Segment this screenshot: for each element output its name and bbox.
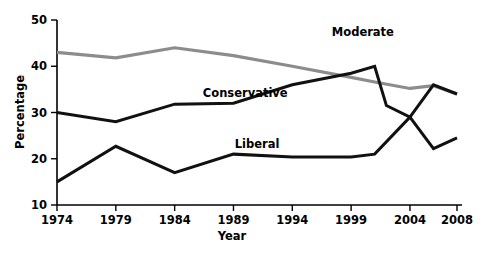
y-tick-label: 40 [31,59,47,73]
y-tick-label: 30 [31,106,47,120]
x-tick-label: 2008 [441,213,473,227]
chart-canvas: 1020304050 19741979198419891994199920042… [0,0,481,255]
series-label-conservative: Conservative [203,86,288,100]
x-tick-label: 1999 [335,213,367,227]
y-axis-title: Percentage [13,75,27,149]
y-tick-label: 50 [31,13,47,27]
y-tick-label: 10 [31,198,47,212]
y-tick-label: 20 [31,152,47,166]
x-tick-label: 1994 [276,213,308,227]
x-tick-label: 1989 [217,213,249,227]
line-chart: 1020304050 19741979198419891994199920042… [0,0,481,255]
x-tick-label: 1974 [41,213,73,227]
series-label-liberal: Liberal [235,137,280,151]
x-tick-label: 1979 [100,213,132,227]
series-label-moderate: Moderate [332,25,394,39]
x-tick-label: 1984 [159,213,191,227]
x-tick-label: 2004 [394,213,426,227]
x-axis-title: Year [217,229,247,243]
